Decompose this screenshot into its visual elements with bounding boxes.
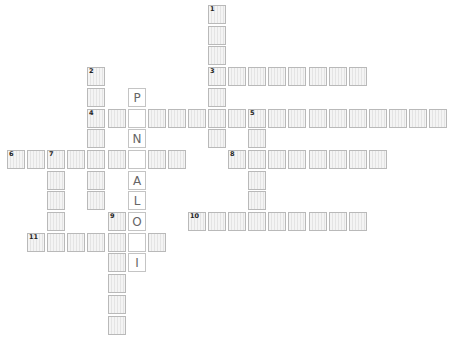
crossword-cell[interactable] bbox=[309, 212, 327, 231]
hint-cell[interactable]: L bbox=[128, 191, 146, 210]
crossword-cell[interactable] bbox=[349, 67, 367, 86]
clue-number: 7 bbox=[49, 151, 54, 158]
crossword-cell[interactable] bbox=[248, 150, 266, 169]
crossword-cell[interactable] bbox=[27, 150, 45, 169]
crossword-cell[interactable] bbox=[369, 150, 387, 169]
crossword-cell[interactable] bbox=[208, 212, 226, 231]
crossword-cell[interactable]: 1 bbox=[208, 5, 226, 24]
crossword-cell[interactable] bbox=[87, 171, 105, 190]
clue-number: 1 bbox=[210, 6, 215, 13]
crossword-cell[interactable]: 5 bbox=[248, 109, 266, 128]
crossword-cell[interactable] bbox=[268, 109, 286, 128]
crossword-cell[interactable] bbox=[208, 26, 226, 45]
crossword-cell[interactable] bbox=[268, 67, 286, 86]
crossword-cell[interactable] bbox=[208, 129, 226, 148]
cell-letter bbox=[129, 234, 145, 251]
crossword-cell[interactable] bbox=[409, 109, 427, 128]
crossword-cell[interactable] bbox=[389, 109, 407, 128]
crossword-cell[interactable] bbox=[87, 233, 105, 252]
clue-number: 6 bbox=[9, 151, 14, 158]
crossword-cell[interactable] bbox=[288, 67, 306, 86]
crossword-cell[interactable] bbox=[369, 109, 387, 128]
crossword-cell[interactable] bbox=[108, 316, 126, 335]
crossword-cell[interactable] bbox=[309, 150, 327, 169]
crossword-cell[interactable]: 2 bbox=[87, 67, 105, 86]
hint-cell[interactable]: P bbox=[128, 88, 146, 107]
crossword-cell[interactable]: 6 bbox=[7, 150, 25, 169]
crossword-cell[interactable] bbox=[67, 150, 85, 169]
crossword-cell[interactable] bbox=[248, 171, 266, 190]
hint-cell[interactable]: N bbox=[128, 129, 146, 148]
crossword-cell[interactable] bbox=[148, 109, 166, 128]
crossword-cell[interactable] bbox=[268, 212, 286, 231]
crossword-cell[interactable] bbox=[329, 67, 347, 86]
clue-number: 3 bbox=[210, 68, 215, 75]
crossword-cell[interactable] bbox=[87, 150, 105, 169]
clue-number: 2 bbox=[89, 68, 94, 75]
crossword-cell[interactable] bbox=[108, 253, 126, 272]
crossword-cell[interactable] bbox=[309, 109, 327, 128]
crossword-cell[interactable]: 4 bbox=[87, 109, 105, 128]
clue-number: 9 bbox=[110, 213, 115, 220]
crossword-cell[interactable] bbox=[108, 109, 126, 128]
crossword-cell[interactable] bbox=[228, 67, 246, 86]
cell-letter: P bbox=[129, 89, 145, 106]
crossword-cell[interactable] bbox=[87, 191, 105, 210]
crossword-cell[interactable] bbox=[168, 150, 186, 169]
crossword-cell[interactable] bbox=[288, 212, 306, 231]
crossword-cell[interactable] bbox=[329, 212, 347, 231]
crossword-cell[interactable] bbox=[349, 109, 367, 128]
crossword-cell[interactable] bbox=[248, 212, 266, 231]
hint-cell[interactable]: A bbox=[128, 171, 146, 190]
crossword-cell[interactable] bbox=[108, 295, 126, 314]
crossword-cell[interactable] bbox=[108, 233, 126, 252]
crossword-cell[interactable] bbox=[47, 233, 65, 252]
crossword-cell[interactable] bbox=[47, 191, 65, 210]
crossword-cell[interactable]: 8 bbox=[228, 150, 246, 169]
crossword-cell[interactable]: 3 bbox=[208, 67, 226, 86]
cell-letter: L bbox=[129, 192, 145, 209]
crossword-cell[interactable] bbox=[349, 212, 367, 231]
crossword-cell[interactable] bbox=[168, 109, 186, 128]
crossword-cell[interactable] bbox=[208, 46, 226, 65]
crossword-cell[interactable] bbox=[248, 67, 266, 86]
crossword-cell[interactable] bbox=[329, 109, 347, 128]
crossword-cell[interactable] bbox=[329, 150, 347, 169]
hint-cell[interactable] bbox=[128, 233, 146, 252]
crossword-cell[interactable] bbox=[188, 109, 206, 128]
hint-cell[interactable] bbox=[128, 150, 146, 169]
crossword-cell[interactable] bbox=[228, 212, 246, 231]
crossword-cell[interactable] bbox=[248, 191, 266, 210]
crossword-cell[interactable] bbox=[148, 233, 166, 252]
clue-number: 10 bbox=[190, 213, 199, 220]
crossword-cell[interactable] bbox=[429, 109, 447, 128]
crossword-cell[interactable] bbox=[228, 109, 246, 128]
crossword-cell[interactable]: 10 bbox=[188, 212, 206, 231]
crossword-cell[interactable] bbox=[87, 88, 105, 107]
crossword-cell[interactable] bbox=[67, 233, 85, 252]
crossword-cell[interactable]: 9 bbox=[108, 212, 126, 231]
crossword-cell[interactable] bbox=[47, 212, 65, 231]
clue-number: 8 bbox=[230, 151, 235, 158]
crossword-cell[interactable] bbox=[47, 171, 65, 190]
hint-cell[interactable]: O bbox=[128, 212, 146, 231]
crossword-cell[interactable] bbox=[87, 129, 105, 148]
crossword-cell[interactable] bbox=[108, 274, 126, 293]
crossword-cell[interactable] bbox=[288, 109, 306, 128]
crossword-cell[interactable] bbox=[349, 150, 367, 169]
crossword-cell[interactable] bbox=[148, 150, 166, 169]
crossword-cell[interactable] bbox=[288, 150, 306, 169]
crossword-cell[interactable] bbox=[248, 129, 266, 148]
crossword-cell[interactable] bbox=[268, 150, 286, 169]
crossword-cell[interactable] bbox=[208, 88, 226, 107]
cell-letter: I bbox=[129, 254, 145, 271]
crossword-cell[interactable] bbox=[208, 109, 226, 128]
hint-cell[interactable] bbox=[128, 109, 146, 128]
hint-cell[interactable]: I bbox=[128, 253, 146, 272]
crossword-cell[interactable] bbox=[309, 67, 327, 86]
crossword-cell[interactable] bbox=[108, 150, 126, 169]
crossword-cell[interactable]: 11 bbox=[27, 233, 45, 252]
cell-letter: O bbox=[129, 213, 145, 230]
clue-number: 4 bbox=[89, 110, 94, 117]
crossword-cell[interactable]: 7 bbox=[47, 150, 65, 169]
